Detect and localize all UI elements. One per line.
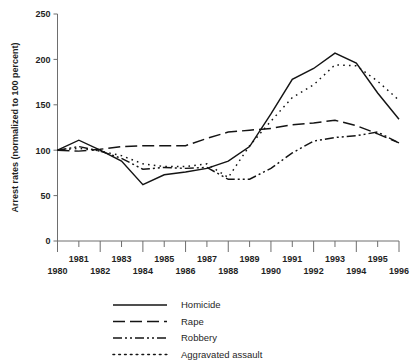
x-tick-label-lower: 1996: [389, 266, 409, 276]
series-line-2: [58, 132, 400, 179]
x-tick-label-lower: 1982: [90, 266, 110, 276]
x-tick-label-lower: 1992: [304, 266, 324, 276]
y-tick-label: 50: [40, 191, 50, 201]
legend-label-3: Aggravated assault: [181, 349, 263, 360]
series-group: [58, 53, 400, 185]
x-tick-label-upper: 1989: [240, 254, 260, 264]
x-tick-label-lower: 1988: [218, 266, 238, 276]
y-tick-label: 150: [35, 100, 50, 110]
x-tick-label-upper: 1993: [325, 254, 345, 264]
x-tick-label-lower: 1984: [133, 266, 153, 276]
series-line-0: [58, 53, 400, 185]
x-axis-ticks: 1980198119821983198419851986198719881989…: [47, 241, 409, 276]
y-tick-label: 200: [35, 55, 50, 65]
line-chart-svg: 0501001502002501980198119821983198419851…: [0, 0, 412, 364]
chart-legend: HomicideRapeRobberyAggravated assault: [113, 299, 263, 360]
y-tick-label: 250: [35, 9, 50, 19]
y-axis-title: Arrest rates (normalized to 100 percent): [10, 42, 20, 212]
chart-axes: [58, 14, 400, 241]
legend-label-0: Homicide: [181, 299, 221, 310]
x-tick-label-upper: 1991: [282, 254, 302, 264]
x-tick-label-upper: 1987: [197, 254, 217, 264]
x-tick-label-upper: 1981: [69, 254, 89, 264]
x-tick-label-lower: 1990: [261, 266, 281, 276]
legend-label-1: Rape: [181, 316, 204, 327]
x-tick-label-lower: 1986: [176, 266, 196, 276]
x-tick-label-lower: 1994: [346, 266, 366, 276]
y-tick-label: 100: [35, 146, 50, 156]
x-tick-label-upper: 1983: [112, 254, 132, 264]
x-tick-label-upper: 1995: [368, 254, 388, 264]
chart-figure: 0501001502002501980198119821983198419851…: [0, 0, 412, 364]
y-axis-ticks: 050100150200250: [35, 9, 57, 246]
legend-label-2: Robbery: [181, 332, 217, 343]
x-tick-label-upper: 1985: [154, 254, 174, 264]
y-tick-label: 0: [45, 236, 50, 246]
x-tick-label-lower: 1980: [47, 266, 67, 276]
